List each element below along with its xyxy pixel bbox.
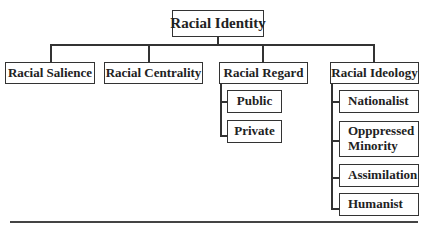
level1-bar	[50, 44, 374, 46]
node-label: Nationalist	[348, 94, 409, 109]
node-label: Private	[234, 124, 274, 139]
node-racial-regard: Racial Regard	[219, 62, 308, 84]
node-nationalist: Nationalist	[339, 90, 419, 113]
node-racial-identity: Racial Identity	[172, 10, 264, 37]
node-private: Private	[227, 120, 282, 143]
ideology-tick-3	[331, 177, 339, 179]
bottom-rule	[10, 221, 418, 223]
node-oppressed-minority: Opppressed Minority	[339, 121, 419, 157]
node-label: Humanist	[348, 197, 403, 212]
node-racial-salience: Racial Salience	[5, 62, 95, 84]
node-label: Racial Regard	[224, 66, 304, 81]
node-label: Racial Salience	[8, 66, 92, 81]
stem-salience	[50, 44, 52, 62]
node-label: Assimilation	[348, 168, 417, 183]
node-label: Public	[237, 94, 272, 109]
node-label: Racial Identity	[170, 15, 265, 32]
ideology-tick-4	[331, 208, 339, 210]
node-label: Racial Ideology	[331, 66, 417, 81]
stem-ideology	[373, 44, 375, 62]
regard-spine	[220, 83, 222, 136]
node-label: Opppressed	[348, 124, 414, 139]
node-humanist: Humanist	[339, 193, 419, 216]
ideology-tick-2	[331, 140, 339, 142]
ideology-tick-1	[331, 101, 339, 103]
node-label: Racial Centrality	[106, 66, 202, 81]
node-racial-centrality: Racial Centrality	[104, 62, 203, 84]
node-racial-ideology: Racial Ideology	[330, 62, 419, 84]
node-public: Public	[227, 90, 282, 113]
stem-centrality	[148, 44, 150, 62]
node-label-line2: Minority	[348, 139, 398, 154]
node-assimilation: Assimilation	[339, 164, 419, 187]
stem-regard	[262, 44, 264, 62]
